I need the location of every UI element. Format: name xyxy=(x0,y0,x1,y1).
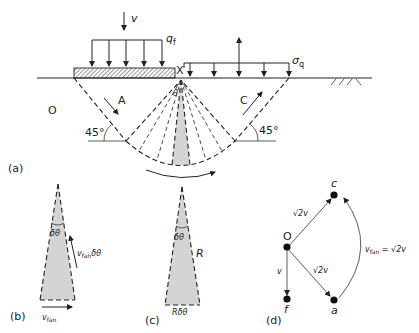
ground-hatch-icon xyxy=(331,79,361,85)
edge-ac-label: vfan = √2v xyxy=(365,245,406,255)
zone-a-arrow xyxy=(104,98,118,114)
fan-rotation-arrow xyxy=(146,170,215,178)
node-c xyxy=(330,191,337,198)
fan-angle-label: θ xyxy=(173,89,178,98)
arc-length-label: Rδθ xyxy=(172,308,187,317)
origin-label: O xyxy=(48,104,57,117)
node-c-label: c xyxy=(331,177,337,190)
zone-a-label: A xyxy=(118,94,126,107)
wedge-angle-label-b: δθ xyxy=(50,229,60,238)
node-f-label: f xyxy=(284,303,290,316)
panel-b-label: (b) xyxy=(10,310,26,323)
edge-o-c xyxy=(287,199,331,248)
panel-b: δθ vfanδθ vfan (b) xyxy=(10,184,101,323)
angle-arc-left xyxy=(104,125,111,141)
point-x-label: X xyxy=(176,64,184,77)
base-velocity-label: vfan xyxy=(42,313,57,323)
zone-c-label: C xyxy=(240,94,248,107)
node-a xyxy=(330,296,337,303)
panel-c-label: (c) xyxy=(145,314,160,327)
edge-of-label: v xyxy=(277,267,282,276)
footing-pressure-label: qf xyxy=(166,32,176,47)
surcharge-arrows xyxy=(184,63,289,76)
panel-c: δθ R Rδθ (c) xyxy=(145,187,204,327)
angle-right-label: 45° xyxy=(259,124,279,137)
surcharge-label: σq xyxy=(292,54,304,69)
footing-pressure-arrows xyxy=(92,40,162,66)
node-o xyxy=(283,243,290,250)
panel-a: v qf X σq O A xyxy=(8,12,372,178)
mechanism-diagram: v qf X σq O A xyxy=(0,0,419,333)
wedge-angle-label-c: δθ xyxy=(174,233,184,242)
node-a-label: a xyxy=(331,304,338,317)
side-velocity-arrow xyxy=(70,236,77,268)
panel-d: O c a f √2v √2v v vfan = √2v (d) xyxy=(266,177,406,327)
radius-label: R xyxy=(196,247,204,260)
footing xyxy=(74,68,175,78)
edge-oa-label: √2v xyxy=(313,266,328,275)
edge-oc-label: √2v xyxy=(293,209,308,218)
node-o-label: O xyxy=(283,230,292,243)
panel-a-label: (a) xyxy=(8,162,23,175)
node-f xyxy=(283,295,290,302)
panel-d-label: (d) xyxy=(266,314,282,327)
angle-arc-right xyxy=(250,124,258,141)
velocity-label: v xyxy=(131,12,138,25)
angle-left-label: 45° xyxy=(85,126,105,139)
edge-a-c xyxy=(339,198,361,298)
side-velocity-label: vfanδθ xyxy=(77,249,101,259)
passive-wedge-fan-boundary xyxy=(181,80,235,141)
